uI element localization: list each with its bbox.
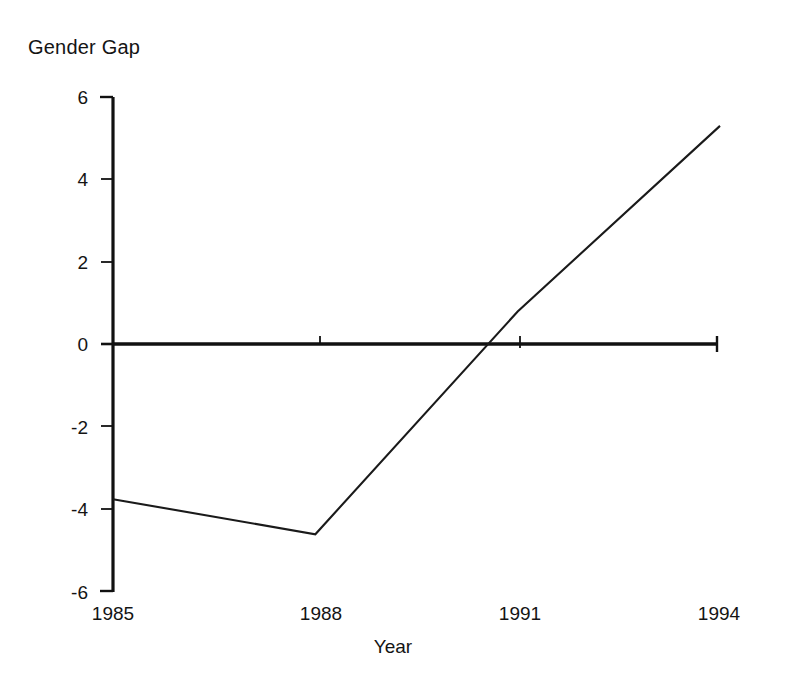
chart-figure: Gender Gap 6 4 2 0 -2 -4 -6 1985 1988 19…	[0, 0, 786, 687]
plot-area	[0, 0, 786, 687]
data-series-line	[113, 126, 720, 534]
